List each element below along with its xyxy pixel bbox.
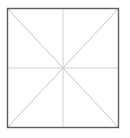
geometric-figure xyxy=(0,0,130,138)
